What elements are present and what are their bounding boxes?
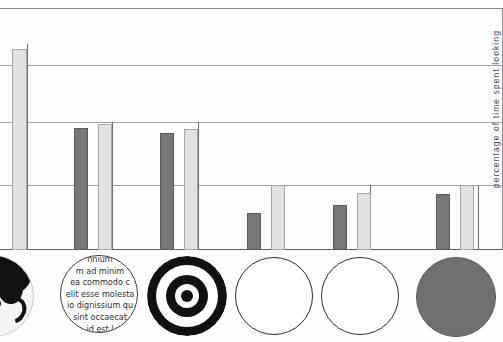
- stimulus-solid-gray: [411, 251, 499, 342]
- bar-dark-bullseye: [160, 133, 174, 250]
- bar-light-text: [98, 124, 112, 250]
- bar-dark-blank-1: [247, 213, 261, 250]
- text-line: m ad minim: [60, 266, 138, 278]
- text-line: id est l: [60, 324, 138, 333]
- text-circle-icon: nnium m ad minim ea commodo c elit esse …: [60, 255, 138, 333]
- face-circle-icon: [0, 255, 34, 337]
- y-axis-title: percentage of time spent looking: [491, 30, 501, 188]
- text-circle-lines: nnium m ad minim ea commodo c elit esse …: [60, 255, 138, 333]
- text-line: elit esse molesta: [60, 289, 138, 301]
- axis-tick-divider: [198, 122, 199, 250]
- axis-tick-divider: [112, 122, 113, 250]
- bar-light-blank-2: [357, 193, 371, 250]
- filled-circle-icon: [416, 257, 496, 337]
- stimulus-icon-strip: nnium m ad minim ea commodo c elit esse …: [0, 251, 503, 342]
- text-line: ea commodo c: [60, 277, 138, 289]
- text-line: io dignissium qu: [60, 300, 138, 312]
- axis-tick-divider: [478, 185, 479, 250]
- empty-circle-icon: [235, 257, 313, 335]
- bullseye-center-dot: [181, 290, 193, 302]
- gridline-75: [0, 65, 503, 66]
- stimulus-bullseye: [143, 251, 231, 342]
- bar-chart-plot-area: percentage of time spent looking: [0, 8, 503, 250]
- bullseye-target-icon: [147, 256, 227, 336]
- bar-dark-blank-2: [333, 205, 347, 250]
- bar-light-blank-1: [271, 185, 285, 250]
- bar-light-bullseye: [184, 129, 198, 250]
- text-line: sint occaecat: [60, 312, 138, 324]
- gridline-50: [0, 122, 503, 123]
- stimulus-text: nnium m ad minim ea commodo c elit esse …: [56, 251, 144, 342]
- figure-panel: percentage of time spent looking nnium m: [0, 0, 503, 342]
- empty-circle-icon: [321, 257, 399, 335]
- bar-dark-text: [74, 128, 88, 250]
- bar-dark-solid-gray: [436, 194, 450, 250]
- bar-light-face: [12, 49, 27, 250]
- axis-tick-divider: [27, 44, 28, 250]
- stimulus-blank-1: [229, 251, 317, 342]
- text-line: nnium: [60, 255, 138, 266]
- bar-light-solid-gray: [460, 185, 474, 250]
- stimulus-blank-2: [315, 251, 403, 342]
